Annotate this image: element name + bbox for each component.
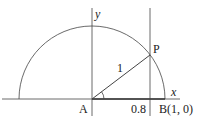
radius-label: 1	[117, 61, 123, 75]
point-p-label: P	[153, 42, 160, 56]
point-b-label: B(1, 0)	[159, 102, 193, 116]
angle-arc	[102, 92, 104, 99]
tick-label-08: 0.8	[131, 102, 146, 116]
x-axis-label: x	[170, 85, 177, 99]
unit-circle-diagram: y x P 1 A 0.8 B(1, 0)	[0, 0, 205, 120]
y-axis-label: y	[94, 7, 101, 21]
point-a-label: A	[79, 102, 88, 116]
